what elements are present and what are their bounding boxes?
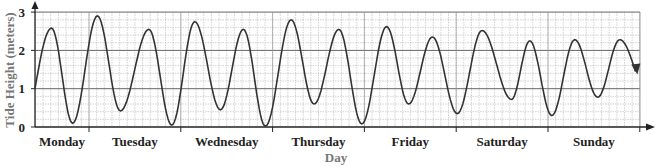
y-tick-label: 2 <box>19 43 26 58</box>
y-axis-arrow-icon <box>32 1 39 9</box>
x-axis-ticks: MondayTuesdayWednesdayThursdayFridaySatu… <box>39 127 640 149</box>
tide-curve <box>35 16 635 126</box>
curve-end-arrow-icon <box>631 63 640 74</box>
y-axis-title: Tide Height (meters) <box>2 12 17 127</box>
x-axis-title: Day <box>325 150 348 165</box>
x-tick-label-saturday: Saturday <box>476 134 528 149</box>
y-axis-ticks: 0123 <box>19 5 36 135</box>
x-tick-label-friday: Friday <box>392 134 430 149</box>
x-tick-label-wednesday: Wednesday <box>195 134 259 149</box>
x-tick-label-sunday: Sunday <box>573 134 615 149</box>
x-tick-label-thursday: Thursday <box>291 134 346 149</box>
x-tick-label-monday: Monday <box>39 134 86 149</box>
y-tick-label: 3 <box>19 5 26 20</box>
tide-chart: 0123 MondayTuesdayWednesdayThursdayFrida… <box>0 0 655 167</box>
x-axis-arrow-icon <box>646 124 655 131</box>
y-tick-label: 0 <box>19 120 26 135</box>
y-tick-label: 1 <box>19 81 26 96</box>
x-tick-label-tuesday: Tuesday <box>112 134 158 149</box>
